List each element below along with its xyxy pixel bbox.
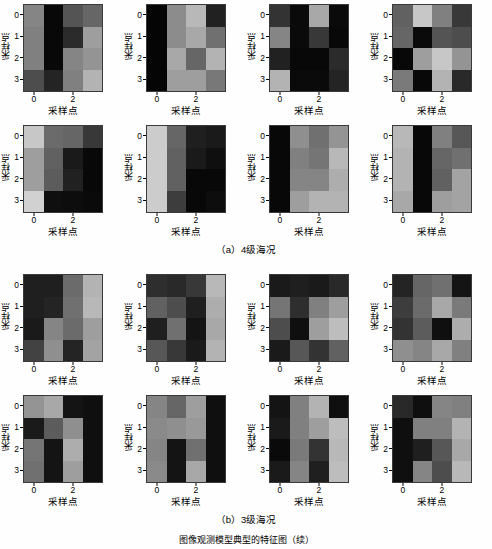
y-tick-1: 1	[10, 26, 23, 48]
y-tick-1: 1	[379, 26, 392, 48]
heatmap-cell	[309, 418, 329, 440]
heatmap-cell	[432, 27, 452, 49]
heatmap-panel-a6: 采样点012302采样点	[123, 125, 246, 238]
heatmap-cell	[63, 396, 83, 418]
heatmap-cell	[413, 126, 433, 148]
x-tick-2: 2	[70, 216, 75, 225]
x-tick-0: 0	[400, 95, 405, 104]
heatmap-cell	[329, 70, 349, 92]
heatmap-cell	[413, 396, 433, 418]
plot-area: 采样点0123	[0, 274, 103, 362]
heatmap-cell	[452, 318, 472, 340]
heatmap-panel-b2: 采样点012302采样点	[123, 274, 246, 387]
y-tick-2: 2	[379, 47, 392, 69]
heatmap-cell	[206, 340, 226, 362]
x-axis-label: 采样点	[270, 224, 348, 238]
y-tick-3: 3	[256, 69, 269, 91]
x-tick-row: 02	[147, 362, 225, 373]
heatmap-grid	[23, 274, 103, 362]
x-tick-2: 2	[439, 365, 444, 374]
y-axis-label: 采样点	[123, 4, 133, 90]
heatmap-cell	[290, 27, 310, 49]
y-tick-column: 0123	[256, 395, 269, 481]
heatmap-cell	[167, 318, 187, 340]
heatmap-cell	[186, 5, 206, 27]
y-tick-column: 0123	[10, 274, 23, 360]
y-tick-0: 0	[379, 4, 392, 26]
heatmap-cell	[83, 27, 103, 49]
heatmap-cell	[452, 169, 472, 191]
heatmap-cell	[270, 169, 290, 191]
plot-area: 采样点0123	[246, 395, 349, 483]
heatmap-grid	[146, 274, 226, 362]
plot-area: 采样点0123	[0, 125, 103, 213]
heatmap-cell	[413, 48, 433, 70]
heatmap-cell	[329, 297, 349, 319]
heatmap-grid	[392, 395, 472, 483]
heatmap-cell	[270, 70, 290, 92]
heatmap-cell	[44, 191, 64, 213]
heatmap-cell	[167, 297, 187, 319]
heatmap-cell	[206, 191, 226, 213]
plot-area: 采样点0123	[246, 4, 349, 92]
heatmap-cell	[83, 418, 103, 440]
heatmap-panel-b6: 采样点012302采样点	[123, 395, 246, 508]
y-tick-1: 1	[10, 417, 23, 439]
heatmap-cell	[167, 461, 187, 483]
heatmap-grid	[23, 4, 103, 92]
x-axis-label: 采样点	[270, 103, 348, 117]
heatmap-cell	[290, 318, 310, 340]
x-tick-2: 2	[70, 486, 75, 495]
heatmap-cell	[83, 340, 103, 362]
figure-continued-caption: 图像观测模型典型的特征图（续）	[0, 533, 492, 546]
heatmap-grid	[392, 4, 472, 92]
heatmap-cell	[329, 191, 349, 213]
y-axis-label: 采样点	[123, 395, 133, 481]
x-tick-0: 0	[31, 95, 36, 104]
heatmap-cell	[432, 126, 452, 148]
x-tick-0: 0	[277, 365, 282, 374]
panel-row-a2: 采样点012302采样点采样点012302采样点采样点012302采样点采样点0…	[0, 125, 492, 238]
heatmap-panel-b4: 采样点012302采样点	[369, 274, 492, 387]
heatmap-cell	[452, 275, 472, 297]
y-axis-label: 采样点	[369, 4, 379, 90]
heatmap-cell	[63, 418, 83, 440]
heatmap-cell	[63, 126, 83, 148]
y-tick-column: 0123	[379, 4, 392, 90]
heatmap-cell	[452, 27, 472, 49]
heatmap-cell	[24, 318, 44, 340]
heatmap-cell	[44, 126, 64, 148]
x-tick-2: 2	[439, 216, 444, 225]
heatmap-cell	[432, 70, 452, 92]
y-tick-3: 3	[133, 339, 146, 361]
heatmap-cell	[147, 461, 167, 483]
heatmap-cell	[186, 461, 206, 483]
heatmap-cell	[393, 191, 413, 213]
heatmap-cell	[83, 297, 103, 319]
heatmap-cell	[413, 418, 433, 440]
x-tick-row: 02	[147, 483, 225, 494]
y-tick-3: 3	[256, 190, 269, 212]
x-tick-0: 0	[154, 95, 159, 104]
heatmap-cell	[432, 191, 452, 213]
heatmap-cell	[63, 191, 83, 213]
heatmap-cell	[413, 297, 433, 319]
y-tick-2: 2	[10, 317, 23, 339]
y-tick-0: 0	[133, 4, 146, 26]
heatmap-cell	[24, 48, 44, 70]
heatmap-cell	[147, 418, 167, 440]
heatmap-cell	[167, 439, 187, 461]
x-tick-row: 02	[270, 362, 348, 373]
heatmap-cell	[270, 191, 290, 213]
heatmap-cell	[393, 340, 413, 362]
heatmap-cell	[167, 396, 187, 418]
heatmap-cell	[432, 169, 452, 191]
y-tick-2: 2	[133, 47, 146, 69]
x-tick-row: 02	[393, 362, 471, 373]
heatmap-cell	[432, 148, 452, 170]
x-tick-0: 0	[154, 216, 159, 225]
y-tick-3: 3	[379, 460, 392, 482]
heatmap-cell	[393, 439, 413, 461]
heatmap-cell	[329, 439, 349, 461]
y-tick-3: 3	[10, 69, 23, 91]
